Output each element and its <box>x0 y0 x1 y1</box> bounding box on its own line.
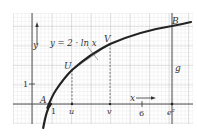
equation-label: y = 2 · ln x <box>49 38 97 48</box>
point-u-marker <box>71 103 73 105</box>
grid <box>13 13 193 124</box>
y-axis-label: y <box>32 40 39 50</box>
point-b-label: B <box>171 16 179 26</box>
x-tick-label-u: u <box>69 107 74 116</box>
function-graph: y y = 2 · ln x U V B A g x 1 1 u v 6 e² <box>0 0 197 137</box>
point-a-label: A <box>39 95 47 105</box>
point-u-label: U <box>64 61 72 71</box>
x-tick-label-v: v <box>107 107 112 116</box>
point-a <box>48 103 50 105</box>
y-tick-label-1: 1 <box>23 80 28 89</box>
point-v-marker <box>109 103 111 105</box>
x-tick-label-6: 6 <box>139 109 144 118</box>
x-tick-label-e2: e² <box>167 108 175 117</box>
point-e2-marker <box>171 103 174 106</box>
x-axis-label: x <box>130 93 135 103</box>
x-tick-label-1: 1 <box>51 107 56 116</box>
line-g-label: g <box>175 63 181 73</box>
